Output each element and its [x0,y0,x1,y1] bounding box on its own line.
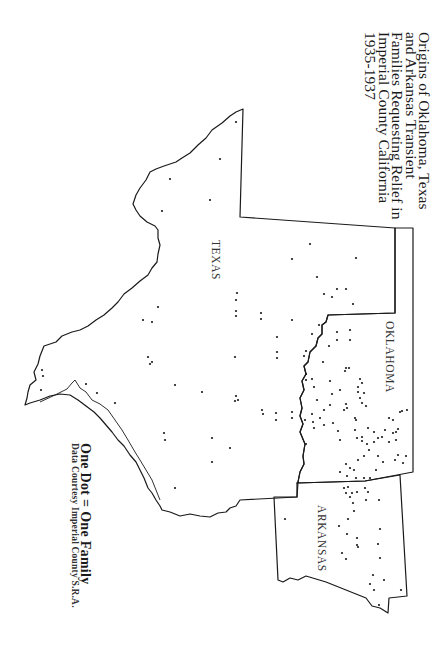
family-dot [341,552,343,554]
family-dot [357,546,359,548]
family-dot [338,525,340,527]
family-dot [394,459,396,461]
family-dot [359,378,361,380]
family-dot [305,350,307,352]
family-dot [339,471,341,473]
family-dot [353,469,355,471]
family-dot [323,409,325,411]
family-dot [332,422,334,424]
family-dot [378,499,380,501]
family-dot [40,389,42,391]
family-dot [400,589,402,591]
family-dot [345,288,347,290]
family-dot [345,492,347,494]
family-dot [367,491,369,493]
family-dot [352,303,354,305]
family-dot [234,356,236,358]
family-dot [378,604,380,606]
family-dot [347,486,349,488]
family-dot [356,537,358,539]
family-dot [355,419,357,421]
family-dot [353,510,355,512]
family-dot [163,432,165,434]
family-dot [377,543,379,545]
family-dot [357,459,359,461]
family-dot [357,391,359,393]
family-dot [276,336,278,338]
family-dot [354,429,356,431]
family-dot [311,378,313,380]
family-dot [261,409,263,411]
family-dot [346,407,348,409]
family-dot [229,447,231,449]
family-dot [235,299,237,301]
family-dot [348,367,350,369]
family-dot [349,329,351,331]
family-dot [41,369,43,371]
family-dot [235,121,237,123]
title-line: Origins of Oklahoma, Texas [418,32,431,220]
family-dot [397,428,399,430]
family-dot [363,477,365,479]
family-dot [291,417,293,419]
family-dot [345,558,347,560]
family-dot [364,487,366,489]
family-dot [361,382,363,384]
family-dot [329,380,331,382]
family-dot [355,257,357,259]
family-dot [382,461,384,463]
family-dot [346,533,348,535]
family-dot [323,293,325,295]
family-dot [345,367,347,369]
family-dot [151,361,153,363]
family-dot [96,392,98,394]
title-line: Imperial County California [377,32,390,220]
state-label-texas: TEXAS [210,240,222,280]
family-dot [313,427,315,429]
family-dot [359,397,361,399]
family-dot [174,384,176,386]
family-dot [344,370,346,372]
family-dot [373,441,375,443]
family-dot [369,477,371,479]
family-dot [369,583,371,585]
family-dot [161,210,163,212]
family-dot [373,431,375,433]
family-dot [381,436,383,438]
family-dot [291,411,293,413]
family-dot [149,363,151,365]
family-dot [346,475,348,477]
family-dot [361,402,363,404]
family-dot [316,399,318,401]
family-dot [352,502,354,504]
family-dot [363,392,365,394]
family-dot [328,345,330,347]
family-dot [114,402,116,404]
family-dot [236,292,238,294]
family-dot [169,178,171,180]
family-dot [336,339,338,341]
family-dot [305,373,307,375]
family-dot [392,432,394,434]
title-line: Families Requesting Relief in [391,32,404,220]
state-label-arkansas: ARKANSAS [316,505,328,572]
family-dot [373,589,375,591]
family-dot [383,579,385,581]
family-dot [311,333,313,335]
family-dot [372,574,374,576]
family-dot [323,424,325,426]
family-dot [209,199,211,201]
family-dot [211,437,213,439]
family-dot [305,443,307,445]
family-dot [384,429,386,431]
family-dot [322,361,324,363]
family-dot [366,443,368,445]
family-dot [388,417,390,419]
arkansas-outline [274,475,407,613]
family-dot [377,455,379,457]
family-dot [375,469,377,471]
family-dot [329,404,331,406]
family-dot [395,431,397,433]
family-dot [260,312,262,314]
family-dot [367,427,369,429]
